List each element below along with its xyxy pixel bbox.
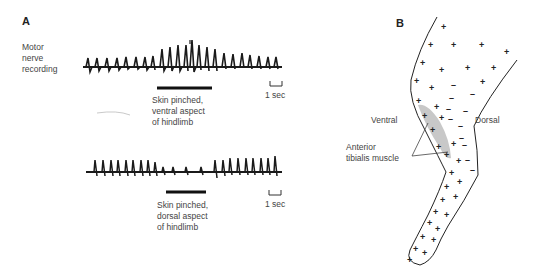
minus-marker: – — [470, 89, 475, 99]
plus-marker: + — [480, 77, 485, 87]
minus-marker: – — [465, 155, 470, 165]
plus-marker: + — [479, 40, 484, 50]
plus-marker: + — [451, 40, 456, 50]
plus-marker: + — [430, 125, 435, 135]
plus-marker: + — [422, 111, 427, 121]
plus-marker: + — [440, 195, 445, 205]
minus-marker: – — [463, 106, 468, 116]
caption-dorsal-stimulus: Skin pinched, dorsal aspect of hindlimb — [157, 200, 208, 233]
plus-marker: + — [435, 224, 440, 234]
nerve-trace-dorsal — [86, 156, 282, 178]
nerve-trace-ventral — [83, 40, 282, 72]
plus-marker: + — [429, 83, 434, 93]
minus-marker: – — [462, 140, 467, 150]
plus-marker: + — [420, 232, 425, 242]
scale-bar-1 — [270, 81, 282, 86]
plus-marker: + — [449, 168, 454, 178]
plus-marker: + — [428, 40, 433, 50]
label-anterior-tibialis: Anterior tibialis muscle — [346, 142, 399, 164]
plus-marker: + — [441, 22, 446, 32]
plus-marker: + — [422, 248, 427, 258]
scale-label-1: 1 sec — [265, 90, 285, 101]
minus-marker: – — [448, 114, 453, 124]
plus-marker: + — [439, 113, 444, 123]
scale-label-2: 1 sec — [265, 199, 285, 210]
caption-ventral-stimulus: Skin pinched, ventral aspect of hindlimb — [152, 95, 205, 128]
minus-marker: – — [451, 80, 456, 90]
plus-marker: + — [504, 47, 509, 57]
plus-marker: + — [444, 182, 449, 192]
plus-marker: + — [491, 63, 496, 73]
minus-marker: – — [449, 93, 454, 103]
plus-marker: + — [456, 156, 461, 166]
plus-marker: + — [444, 150, 449, 160]
plus-marker: + — [407, 255, 412, 265]
plus-marker: + — [416, 96, 421, 106]
plus-marker: + — [465, 63, 470, 73]
plus-marker: + — [433, 207, 438, 217]
minus-marker: – — [446, 104, 451, 114]
minus-marker: – — [470, 165, 475, 175]
plus-marker: + — [413, 244, 418, 254]
plus-marker: + — [436, 142, 441, 152]
plus-marker: + — [451, 139, 456, 149]
plus-marker: + — [414, 76, 419, 86]
plus-marker: + — [431, 235, 436, 245]
scale-bar-2 — [269, 190, 281, 195]
label-dorsal: Dorsal — [475, 115, 500, 126]
label-ventral: Ventral — [371, 115, 397, 126]
plus-marker: + — [457, 177, 462, 187]
plus-marker: + — [434, 102, 439, 112]
plus-marker: + — [439, 65, 444, 75]
plus-marker: + — [444, 210, 449, 220]
plus-marker: + — [420, 58, 425, 68]
plus-marker: + — [453, 192, 458, 202]
plus-marker: + — [427, 218, 432, 228]
minus-marker: – — [458, 121, 463, 131]
panel-b-label: B — [396, 17, 404, 29]
